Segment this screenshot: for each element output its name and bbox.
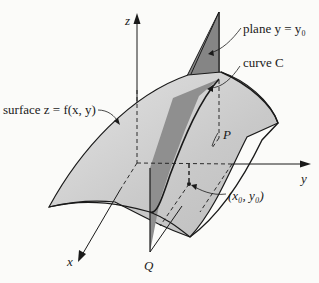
base-point-label: (x₀, y₀) [228,189,264,202]
y-axis [232,161,311,168]
point-q-label: Q [144,259,153,272]
x-axis-arrowhead-icon [78,250,86,262]
base-point-dot [187,182,191,186]
diagram-canvas [0,0,319,283]
plane-label: plane y = y₀ [243,22,306,35]
y-axis-arrowhead-icon [300,161,311,168]
x-axis-label: x [67,255,73,268]
point-p-label: P [223,128,231,141]
z-axis-arrowhead-icon [134,13,141,24]
y-axis-label: y [301,172,307,185]
surface-label: surface z = f(x, y) [3,103,96,116]
z-axis-label: z [125,14,130,27]
partial-derivative-diagram: z y x surface z = f(x, y) plane y = y₀ c… [0,0,319,283]
curve-c-label: curve C [243,56,284,69]
